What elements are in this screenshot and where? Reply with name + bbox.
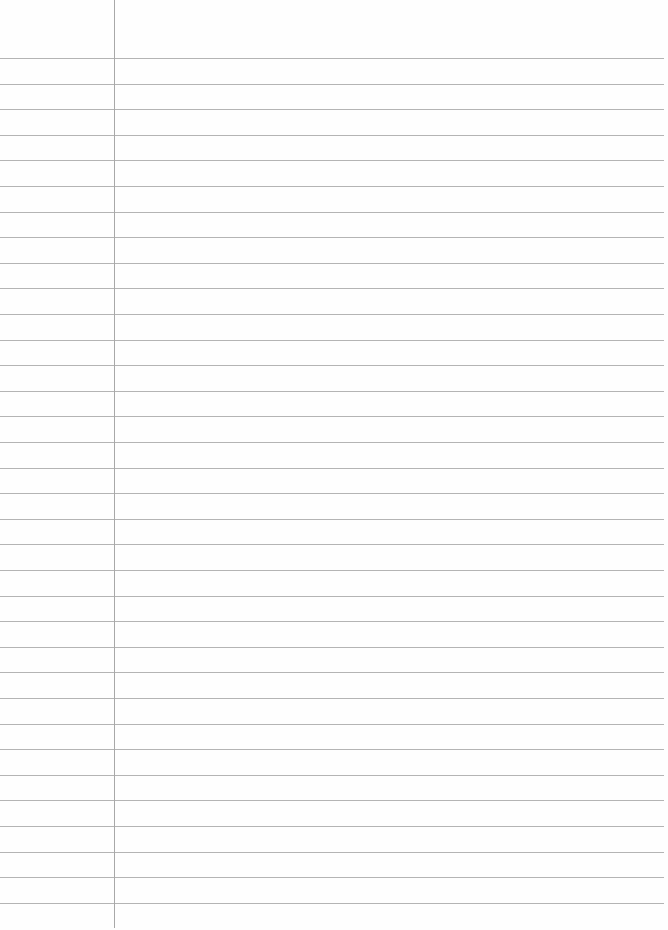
ruled-line xyxy=(0,596,664,597)
ruled-line xyxy=(0,647,664,648)
ruled-line xyxy=(0,237,664,238)
ruled-line xyxy=(0,749,664,750)
ruled-line xyxy=(0,877,664,878)
ruled-line xyxy=(0,519,664,520)
ruled-line xyxy=(0,570,664,571)
ruled-line xyxy=(0,160,664,161)
ruled-line xyxy=(0,468,664,469)
ruled-line xyxy=(0,58,664,59)
ruled-line xyxy=(0,314,664,315)
ruled-line xyxy=(0,672,664,673)
lined-paper-sheet xyxy=(0,0,668,930)
ruled-line xyxy=(0,212,664,213)
ruled-line xyxy=(0,800,664,801)
ruled-line xyxy=(0,903,664,904)
ruled-line xyxy=(0,442,664,443)
ruled-line xyxy=(0,109,664,110)
ruled-line xyxy=(0,826,664,827)
ruled-line xyxy=(0,391,664,392)
ruled-line xyxy=(0,493,664,494)
ruled-line xyxy=(0,775,664,776)
ruled-line xyxy=(0,84,664,85)
ruled-line xyxy=(0,263,664,264)
ruled-line xyxy=(0,698,664,699)
ruled-line xyxy=(0,416,664,417)
ruled-line xyxy=(0,544,664,545)
left-margin-line xyxy=(114,0,115,928)
ruled-line xyxy=(0,186,664,187)
ruled-line xyxy=(0,724,664,725)
ruled-line xyxy=(0,621,664,622)
ruled-line xyxy=(0,288,664,289)
ruled-line xyxy=(0,852,664,853)
ruled-line xyxy=(0,365,664,366)
ruled-line xyxy=(0,135,664,136)
ruled-line xyxy=(0,340,664,341)
